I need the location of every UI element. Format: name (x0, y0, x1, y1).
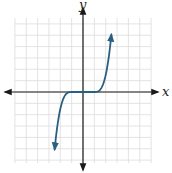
y-axis-label: y (78, 0, 87, 12)
x-axis-label: x (162, 84, 170, 99)
chart: x y (0, 0, 172, 173)
